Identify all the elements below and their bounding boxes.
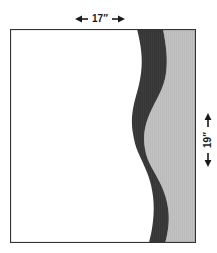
height-label-text: 19″ [203,132,213,148]
width-dimension: 17″ [74,11,126,27]
height-label: 19″ [200,112,216,168]
diagram-canvas: 17″ 19″ [0,0,217,253]
shape-figure-svg [10,29,196,243]
shape-figure [10,29,196,243]
height-dimension: 19″ [200,112,216,168]
width-label: 17″ [74,11,126,27]
